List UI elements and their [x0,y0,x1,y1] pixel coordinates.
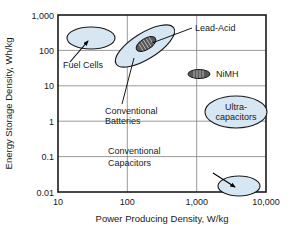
y-axis-title: Energy Storage Density, Wh/kg [3,38,14,170]
xtick-label-10000: 10,000 [252,197,280,207]
annotation-ultracapacitors-line2: capacitors [215,112,257,122]
annotation-lead-acid: Lead-Acid [195,23,236,33]
ytick-label-1000: 1,000 [31,11,54,21]
chart-svg: Fuel Cells Lead-Acid Conventional Batter… [0,0,303,247]
annotation-fuel-cells: Fuel Cells [63,60,104,70]
region-nimh [188,70,210,79]
annotation-nimh: NiMH [216,69,239,79]
annotation-conventional-capacitors-line2: Capacitors [108,158,152,168]
ytick-label-100: 100 [39,46,54,56]
x-axis-ticks: 10 100 1,000 10,000 [53,197,280,207]
ytick-label-0-1: 0.1 [41,152,54,162]
region-conventional-capacitors [218,176,260,196]
xtick-label-10: 10 [53,197,63,207]
ytick-label-10: 10 [44,81,54,91]
annotation-conventional-batteries-line2: Batteries [105,116,141,126]
x-axis-title: Power Producing Density, W/kg [96,213,229,224]
xtick-label-100: 100 [120,197,135,207]
ytick-label-0-01: 0.01 [36,188,54,198]
annotation-ultracapacitors-line1: Ultra- [225,102,247,112]
annotation-conventional-capacitors-line1: Conventional [108,146,161,156]
xtick-label-1000: 1,000 [185,197,208,207]
region-fuel-cells [67,27,115,49]
annotation-conventional-batteries-line1: Conventional [105,106,158,116]
ytick-label-1: 1 [49,117,54,127]
y-axis-ticks: 1,000 100 10 1 0.1 0.01 [31,11,54,198]
energy-power-density-chart: Fuel Cells Lead-Acid Conventional Batter… [0,0,303,247]
